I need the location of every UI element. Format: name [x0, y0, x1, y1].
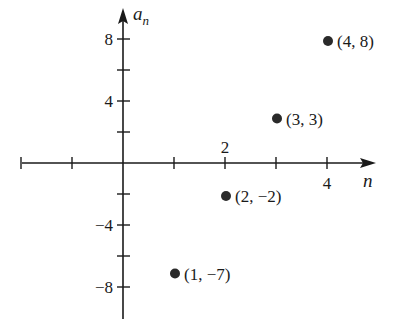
point-marker-icon	[272, 114, 282, 124]
y-tick-label: −4	[95, 216, 114, 235]
data-point: (2, −2)	[221, 187, 281, 206]
point-marker-icon	[221, 191, 231, 201]
y-axis-label: an	[133, 3, 149, 28]
point-label: (2, −2)	[235, 187, 281, 206]
data-point: (4, 8)	[323, 32, 374, 51]
x-tick-label: 4	[323, 174, 332, 193]
y-tick-label: 8	[105, 30, 114, 49]
y-tick-label: −8	[95, 278, 113, 297]
point-label: (3, 3)	[286, 110, 323, 129]
point-marker-icon	[323, 36, 333, 46]
x-axis-label: n	[363, 170, 373, 191]
point-label: (4, 8)	[337, 32, 374, 51]
point-marker-icon	[170, 269, 180, 279]
x-tick-label: 2	[221, 138, 230, 157]
data-point: (3, 3)	[272, 110, 323, 129]
point-label: (1, −7)	[184, 265, 230, 284]
scatter-chart: 2484−4−8 (1, −7)(2, −2)(3, 3)(4, 8) n an	[0, 0, 405, 332]
data-point: (1, −7)	[170, 265, 230, 284]
y-tick-label: 4	[105, 92, 114, 111]
data-points: (1, −7)(2, −2)(3, 3)(4, 8)	[170, 32, 374, 284]
